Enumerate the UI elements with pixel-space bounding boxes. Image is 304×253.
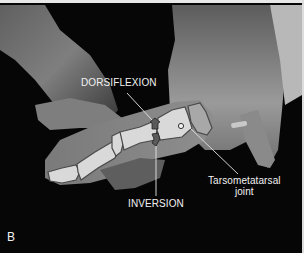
joint-marker-dot xyxy=(178,123,183,128)
inversion-label: INVERSION xyxy=(128,198,184,209)
tmt-label-line2: joint xyxy=(208,186,281,197)
tmt-label-line1: Tarsometatarsal xyxy=(208,175,281,186)
foot-mobilization-photo xyxy=(0,0,304,253)
dorsiflexion-label: DORSIFLEXION xyxy=(81,77,157,88)
anatomy-figure: DORSIFLEXION INVERSION Tarsometatarsal j… xyxy=(0,0,304,253)
tarsometatarsal-joint-label: Tarsometatarsal joint xyxy=(208,175,281,197)
top-border xyxy=(0,0,304,3)
panel-letter: B xyxy=(7,230,15,244)
right-border xyxy=(302,0,304,253)
